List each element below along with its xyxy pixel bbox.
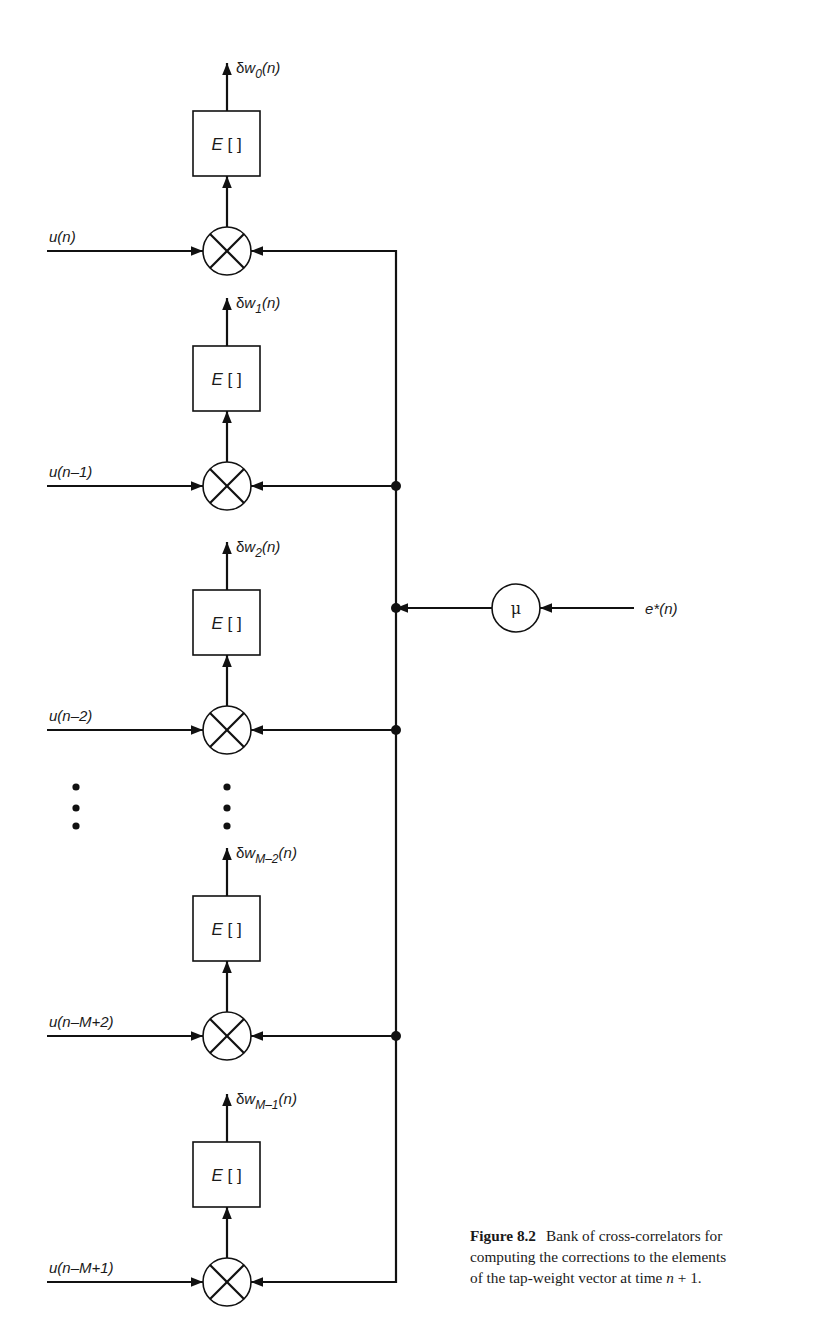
ellipsis-dot [223, 822, 230, 829]
input-label: u(n–1) [49, 463, 92, 480]
caption-variable-n: n [666, 1269, 674, 1286]
input-label: u(n–M+2) [49, 1013, 114, 1030]
correlator-row-M-1: u(n–M+1)E [ ]δwM–1(n) [47, 1090, 396, 1306]
figure-caption: Figure 8.2Bank of cross-correlators for … [470, 1225, 820, 1288]
error-label: e*(n) [645, 600, 678, 617]
ellipsis-dot [72, 822, 79, 829]
expectation-label: E [ ] [211, 614, 241, 633]
correlator-row-2: u(n–2)E [ ]δw2(n) [47, 538, 401, 754]
output-label: δw2(n) [236, 538, 280, 560]
step-size-block: μe*(n) [391, 584, 678, 632]
junction-dot [391, 603, 401, 613]
caption-line-2: computing the corrections to the element… [470, 1246, 820, 1267]
expectation-label: E [ ] [211, 135, 241, 154]
output-label: δw1(n) [236, 294, 280, 316]
output-label: δwM–1(n) [236, 1090, 297, 1112]
cross-correlator-bank-diagram: u(n)E [ ]δw0(n)u(n–1)E [ ]δw1(n)u(n–2)E … [0, 0, 828, 1336]
output-label: δw0(n) [236, 59, 280, 81]
correlator-row-1: u(n–1)E [ ]δw1(n) [47, 294, 401, 510]
caption-line-1: Bank of cross-correlators for [546, 1227, 722, 1244]
expectation-label: E [ ] [211, 920, 241, 939]
expectation-label: E [ ] [211, 1166, 241, 1185]
output-label: δwM–2(n) [236, 844, 297, 866]
ellipsis-dot [223, 783, 230, 790]
figure-number: Figure 8.2 [470, 1227, 536, 1244]
ellipsis-dot [72, 804, 79, 811]
ellipsis-dots [72, 783, 230, 829]
ellipsis-dot [223, 804, 230, 811]
correlator-row-0: u(n)E [ ]δw0(n) [47, 59, 396, 275]
expectation-label: E [ ] [211, 370, 241, 389]
correlator-row-M-2: u(n–M+2)E [ ]δwM–2(n) [47, 844, 401, 1060]
input-label: u(n) [49, 228, 76, 245]
input-label: u(n–M+1) [49, 1259, 114, 1276]
input-label: u(n–2) [49, 707, 92, 724]
ellipsis-dot [72, 783, 79, 790]
step-size-label: μ [511, 599, 521, 618]
caption-line-3-post: + 1. [674, 1269, 702, 1286]
caption-line-3-pre: of the tap-weight vector at time [470, 1269, 666, 1286]
correlator-rows: u(n)E [ ]δw0(n)u(n–1)E [ ]δw1(n)u(n–2)E … [47, 59, 401, 1306]
